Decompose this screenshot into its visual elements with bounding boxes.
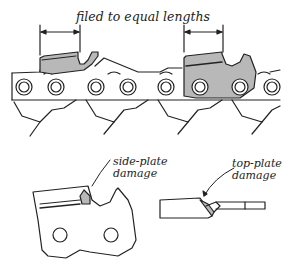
side-plate-damage-label: side-plate damage — [113, 156, 167, 179]
top-plate-damage-label: top-plate damage — [232, 158, 282, 181]
dimension-marker-right — [184, 25, 223, 52]
dimension-marker-left — [40, 25, 80, 55]
side-plate-label-line2: damage — [113, 168, 167, 180]
top-plate-label-line2: damage — [232, 170, 282, 182]
top-plate-label-line1: top-plate — [232, 158, 282, 170]
side-plate-label-line1: side-plate — [113, 156, 167, 168]
rivets — [16, 79, 280, 95]
dimension-label: filed to equal lengths — [76, 10, 210, 23]
saw-chain-diagram — [0, 0, 294, 271]
left-cutter — [40, 52, 98, 74]
